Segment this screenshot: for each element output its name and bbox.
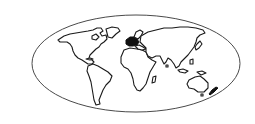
continent-north-america (58, 28, 107, 64)
world-map-svg (0, 0, 255, 124)
region-philippines (190, 59, 193, 64)
world-map (0, 0, 255, 124)
region-madagascar (152, 76, 156, 83)
continent-australia (187, 76, 208, 92)
region-sri-lanka (166, 65, 168, 67)
region-caribbean (86, 58, 93, 60)
continent-south-america (87, 64, 112, 105)
region-new-guinea (197, 71, 206, 75)
continent-greenland (106, 27, 120, 38)
region-indonesia (178, 69, 188, 73)
region-tasmania (201, 94, 203, 96)
